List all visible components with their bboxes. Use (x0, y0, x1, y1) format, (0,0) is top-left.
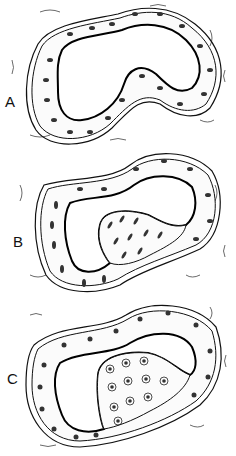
panel-label-c: C (7, 370, 18, 387)
panel-label-a: A (5, 93, 15, 110)
panel-label-b: B (13, 233, 23, 250)
duct-illustration-c (0, 295, 236, 456)
panel-b: B (0, 145, 236, 295)
panel-a: A (0, 0, 236, 150)
panel-c: C (0, 295, 236, 456)
duct-illustration-b (0, 145, 236, 295)
duct-illustration-a (0, 0, 236, 150)
